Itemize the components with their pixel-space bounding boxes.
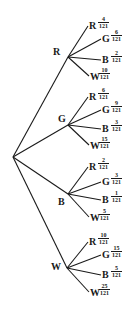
fraction-denominator: 121 [99, 73, 110, 80]
leaf-label-rr: R [89, 21, 96, 31]
leaf-label-wg: G [102, 250, 110, 260]
leaf-line-gb [68, 125, 101, 129]
fraction-denominator: 121 [99, 214, 110, 221]
fraction-denominator: 121 [99, 289, 110, 296]
branch-line-w [13, 157, 67, 268]
leaf-probability-gb: 3121 [111, 119, 122, 132]
leaf-line-rw [68, 57, 89, 76]
leaf-probability-ww: 25121 [99, 283, 110, 296]
leaf-line-rr [68, 26, 88, 57]
fraction-denominator: 121 [98, 22, 109, 29]
leaf-probability-rb: 2121 [111, 50, 122, 63]
leaf-probability-wb: 5121 [111, 265, 122, 278]
fraction-denominator: 121 [111, 35, 122, 42]
leaf-probability-bb: 1121 [111, 190, 122, 203]
leaf-probability-bg: 3121 [111, 172, 122, 185]
fraction-denominator: 121 [111, 125, 122, 132]
leaf-label-wb: B [102, 270, 109, 280]
fraction-denominator: 121 [111, 178, 122, 185]
branch-line-b [13, 157, 68, 194]
fraction-denominator: 121 [98, 163, 109, 170]
leaf-probability-gg: 9121 [111, 100, 122, 113]
leaf-probability-wr: 10121 [98, 232, 109, 245]
leaf-probability-rg: 6121 [111, 29, 122, 42]
leaf-line-rg [68, 39, 101, 57]
fraction-denominator: 121 [111, 106, 122, 113]
leaf-label-gg: G [102, 105, 110, 115]
branch-label-r: R [53, 47, 60, 57]
leaf-label-bg: G [102, 177, 110, 187]
leaf-label-gr: R [89, 92, 96, 102]
leaf-label-rb: B [102, 55, 109, 65]
leaf-probability-gr: 6121 [98, 87, 109, 100]
leaf-label-bb: B [102, 195, 109, 205]
branch-line-r [13, 57, 68, 157]
leaf-label-br: R [89, 162, 96, 172]
leaf-probability-bw: 5121 [99, 208, 110, 221]
fraction-denominator: 121 [111, 271, 122, 278]
leaf-probability-rw: 10121 [99, 67, 110, 80]
leaf-label-gb: B [102, 124, 109, 134]
leaf-probability-br: 2121 [98, 157, 109, 170]
branch-label-w: W [51, 262, 61, 272]
fraction-denominator: 121 [98, 238, 109, 245]
leaf-line-gw [68, 125, 89, 145]
fraction-denominator: 121 [111, 56, 122, 63]
branch-label-b: B [58, 197, 65, 207]
fraction-denominator: 121 [98, 93, 109, 100]
leaf-label-rg: G [102, 34, 110, 44]
leaf-probability-wg: 15121 [111, 245, 122, 258]
fraction-denominator: 121 [111, 251, 122, 258]
leaf-line-rb [68, 57, 101, 60]
leaf-probability-rr: 4121 [98, 16, 109, 29]
leaf-label-wr: R [89, 237, 96, 247]
fraction-denominator: 121 [99, 142, 110, 149]
fraction-denominator: 121 [111, 196, 122, 203]
branch-label-g: G [58, 114, 66, 124]
leaf-probability-gw: 15121 [99, 136, 110, 149]
